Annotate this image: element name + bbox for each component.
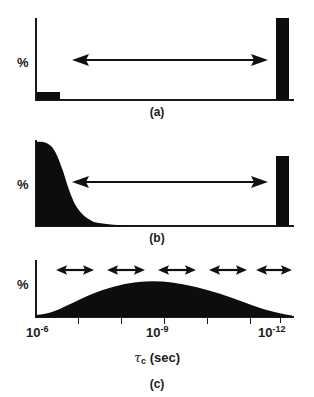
x-axis-title: τc (sec) bbox=[0, 351, 314, 364]
panel-c-range-arrow-2 bbox=[107, 263, 145, 277]
x-tick-label-left-exponent: -6 bbox=[40, 324, 48, 334]
panel-a-fast-component-spike bbox=[276, 18, 289, 100]
panel-c-tick-2 bbox=[121, 318, 122, 324]
panel-c: % bbox=[0, 252, 314, 397]
panel-a-slow-component-bar bbox=[37, 92, 60, 100]
x-axis-units: (sec) bbox=[150, 350, 180, 365]
panel-c-tick-5 bbox=[250, 318, 251, 324]
x-tick-label-center-mantissa: 10 bbox=[146, 325, 160, 340]
x-tick-label-right-mantissa: 10 bbox=[258, 325, 272, 340]
tau-subscript: c bbox=[141, 356, 146, 366]
correlation-time-distribution-figure: % (a) % bbox=[0, 0, 314, 397]
x-tick-label-left-mantissa: 10 bbox=[26, 325, 40, 340]
x-tick-label-center: 10-9 bbox=[146, 326, 168, 339]
panel-b-caption: (b) bbox=[0, 231, 314, 245]
panel-a-y-label: % bbox=[17, 56, 29, 69]
panel-a-range-arrow bbox=[72, 50, 268, 70]
x-tick-label-right: 10-12 bbox=[258, 326, 285, 339]
panel-c-tick-6 bbox=[280, 314, 281, 323]
panel-b: % (b) bbox=[0, 134, 314, 254]
panel-a: % (a) bbox=[0, 8, 314, 126]
panel-b-y-label: % bbox=[17, 178, 29, 191]
panel-a-y-axis bbox=[35, 18, 37, 100]
x-tick-label-left: 10-6 bbox=[26, 326, 48, 339]
panel-c-y-label: % bbox=[17, 278, 29, 291]
panel-c-range-arrow-1 bbox=[56, 263, 94, 277]
x-tick-label-center-exponent: -9 bbox=[160, 324, 168, 334]
panel-a-x-axis bbox=[35, 99, 294, 101]
x-tick-label-right-exponent: -12 bbox=[272, 324, 285, 334]
panel-c-range-arrow-5 bbox=[256, 263, 292, 277]
panel-b-fast-component-spike bbox=[276, 156, 289, 226]
panel-c-caption: (c) bbox=[0, 377, 314, 391]
panel-c-distribution bbox=[36, 276, 292, 317]
panel-c-range-arrow-4 bbox=[209, 263, 247, 277]
panel-a-caption: (a) bbox=[0, 105, 314, 119]
panel-c-tick-1 bbox=[78, 318, 79, 324]
panel-c-tick-4 bbox=[207, 318, 208, 324]
panel-b-range-arrow bbox=[72, 172, 268, 192]
tau-symbol: τ bbox=[134, 350, 141, 365]
panel-c-range-arrow-3 bbox=[158, 263, 196, 277]
